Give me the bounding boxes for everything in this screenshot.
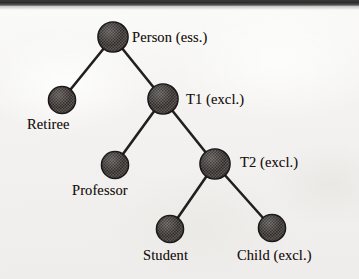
diagram-canvas: Person (ess.)RetireeT1 (excl.)ProfessorT… [0,0,359,279]
tree-node-shading-t2 [200,149,230,179]
tree-nodes [49,22,286,243]
tree-node-shading-student [157,216,184,243]
tree-edges [62,37,272,229]
tree-node-label-t2: T2 (excl.) [240,155,298,170]
tree-node-label-person: Person (ess.) [132,30,207,45]
tree-node-shading-professor [102,152,129,179]
tree-node-shading-person [98,22,128,52]
tree-node-label-child: Child (excl.) [237,248,312,263]
tree-node-label-retiree: Retiree [27,117,70,132]
tree-node-label-professor: Professor [72,183,128,198]
tree-node-shading-retiree [49,87,76,114]
tree-node-label-t1: T1 (excl.) [186,92,244,107]
tree-node-label-student: Student [143,248,188,263]
tree-node-shading-child [259,215,286,242]
tree-node-shading-t1 [148,84,178,114]
